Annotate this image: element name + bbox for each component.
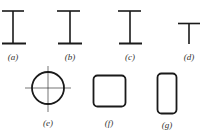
shape-d-t-section — [178, 24, 200, 45]
label-d: (d) — [184, 52, 195, 62]
shape-g-rounded-rectangle — [158, 74, 177, 114]
label-a: (a) — [8, 52, 19, 62]
cross-section-diagram: (a) (b) (c) (d) (e) (f) (g) — [0, 0, 203, 135]
label-c: (c) — [125, 52, 135, 62]
label-b: (b) — [65, 52, 76, 62]
shape-e-circle — [25, 66, 71, 112]
label-g: (g) — [162, 120, 173, 130]
label-f: (f) — [105, 118, 114, 128]
shape-f-rounded-square — [94, 76, 126, 107]
shape-a-i-section — [2, 11, 26, 44]
shape-c-i-section — [118, 11, 142, 44]
label-e: (e) — [43, 118, 53, 128]
shape-b-i-section — [57, 11, 82, 44]
